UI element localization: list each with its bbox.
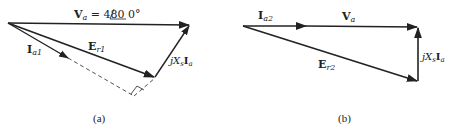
right-angle-marker	[131, 86, 144, 94]
label-ia2: Ia2	[258, 9, 273, 23]
label-er1: Er1	[88, 40, 105, 54]
caption-b: (b)	[338, 112, 351, 125]
label-ia1: Ia1	[27, 43, 42, 57]
dashed-perpendicular	[134, 78, 155, 96]
caption-a: (a)	[93, 112, 106, 125]
dashed-extension	[68, 58, 134, 96]
vector-er2	[243, 26, 417, 81]
angle-value: 0°	[128, 8, 141, 21]
diagram-b: Ia2 Va Er2 jXsIa (b)	[243, 9, 445, 125]
vector-va-a	[8, 23, 189, 25]
label-jxsia-a: jXsIa	[168, 55, 193, 68]
diagram-a: Va = 480 0° Er1 Ia1 jXsIa (a)	[8, 8, 193, 125]
label-er2: Er2	[318, 58, 335, 72]
vector-jxsia-a	[155, 26, 189, 77]
label-va-b: Va	[341, 10, 356, 24]
label-jxsia-b: jXsIa	[420, 51, 445, 64]
phasor-diagrams: Va = 480 0° Er1 Ia1 jXsIa (a) Ia2 Va Er2…	[0, 0, 449, 132]
vector-va-b	[306, 26, 417, 27]
label-va-a: Va = 480 0°	[73, 8, 141, 22]
